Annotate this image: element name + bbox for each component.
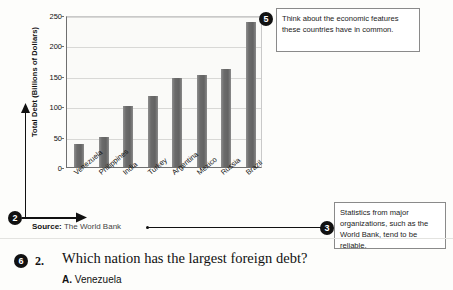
bar xyxy=(221,69,231,167)
callout-marker-3[interactable]: 3 xyxy=(320,221,334,235)
y-tick-label: 50 xyxy=(38,133,62,142)
callout-marker-5[interactable]: 5 xyxy=(259,12,273,26)
answer-choice-a-label: Venezuela xyxy=(75,274,122,285)
y-tick-label: 200 xyxy=(38,42,62,51)
source-value: The World Bank xyxy=(62,222,121,231)
callout-marker-2[interactable]: 2 xyxy=(8,211,22,225)
source-line: Source: The World Bank xyxy=(32,222,121,231)
section-divider xyxy=(0,238,453,239)
y-tick-mark xyxy=(61,107,64,108)
y-tick-label: 150 xyxy=(38,72,62,81)
answer-choice-a[interactable]: A. Venezuela xyxy=(62,274,122,285)
y-tick-mark xyxy=(61,77,64,78)
bar xyxy=(172,78,182,167)
textbook-page: Total Debt (Billions of Dollars) 0501001… xyxy=(0,0,453,290)
callout-marker-6[interactable]: 6 xyxy=(14,254,28,268)
callout-2-arrow-up-icon xyxy=(20,103,31,115)
bar-series xyxy=(67,17,261,167)
bar xyxy=(148,96,158,167)
source-label: Source: xyxy=(32,222,62,231)
callout-2-vertical-leader xyxy=(25,112,26,218)
y-tick-label: 100 xyxy=(38,103,62,112)
y-tick-mark xyxy=(61,138,64,139)
bar xyxy=(246,22,256,167)
question-text: Which nation has the largest foreign deb… xyxy=(62,250,307,267)
y-tick-label: 250 xyxy=(38,12,62,21)
question-number: 2. xyxy=(35,254,44,269)
callout-2-horizontal-leader xyxy=(22,217,78,219)
callout-box-3: Statistics from major organizations, suc… xyxy=(334,202,446,249)
callout-3-leader xyxy=(148,227,322,228)
y-tick-mark xyxy=(61,168,64,169)
answer-choice-a-letter: A. xyxy=(62,274,72,285)
y-tick-mark xyxy=(61,16,64,17)
bar-chart: Total Debt (Billions of Dollars) 0501001… xyxy=(18,6,268,196)
y-axis-ticks: 050100150200250 xyxy=(38,16,64,168)
plot-area xyxy=(66,16,262,168)
x-axis-labels: VenezuelaPhilippinesIndiaTurkeyArgentina… xyxy=(66,170,276,210)
y-tick-label: 0 xyxy=(38,164,62,173)
callout-box-5: Think about the economic features these … xyxy=(276,8,420,52)
y-tick-mark xyxy=(61,46,64,47)
